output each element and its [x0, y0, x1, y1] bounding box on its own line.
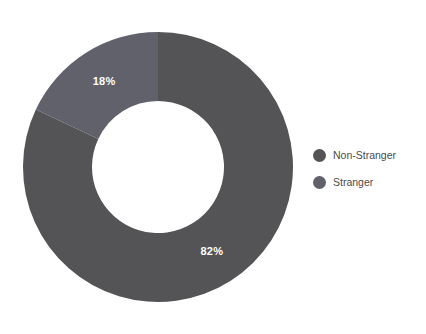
legend-swatch-icon: [313, 176, 326, 189]
legend-item-stranger[interactable]: Stranger: [313, 169, 426, 196]
donut-chart-figure: 82% 18% Non-Stranger Stranger: [0, 0, 426, 334]
slice-label-non-stranger: 82%: [200, 245, 223, 257]
legend-item-label: Non-Stranger: [333, 150, 396, 161]
slice-label-stranger: 18%: [93, 75, 116, 87]
legend-swatch-icon: [313, 149, 326, 162]
chart-legend: Non-Stranger Stranger: [313, 142, 426, 196]
legend-item-non-stranger[interactable]: Non-Stranger: [313, 142, 426, 169]
legend-item-label: Stranger: [333, 177, 373, 188]
